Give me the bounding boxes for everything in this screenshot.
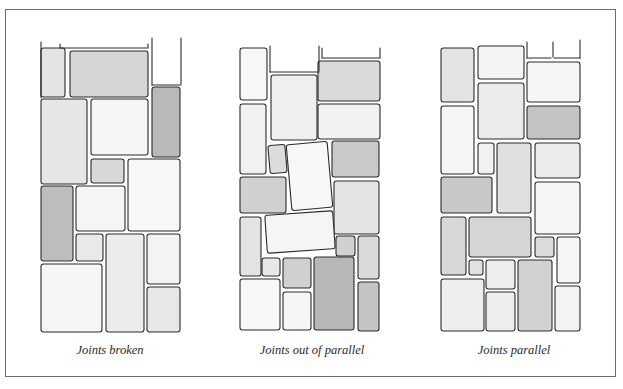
stone xyxy=(147,234,180,284)
stone xyxy=(41,186,73,261)
stone xyxy=(147,287,180,332)
stone xyxy=(527,62,580,102)
caption-joints-broken: Joints broken xyxy=(50,343,170,358)
stone xyxy=(240,104,266,174)
stone xyxy=(76,234,103,261)
stone xyxy=(240,279,280,330)
stone xyxy=(535,237,554,257)
stone xyxy=(478,46,524,79)
stone xyxy=(518,260,552,331)
stone xyxy=(334,181,379,234)
stone xyxy=(91,99,148,155)
stone xyxy=(70,51,148,97)
stone xyxy=(41,48,65,97)
stone xyxy=(336,236,355,256)
stone xyxy=(240,177,286,213)
stone xyxy=(283,258,311,288)
stone xyxy=(469,260,483,275)
stone xyxy=(91,159,124,183)
stone xyxy=(478,83,524,139)
stone xyxy=(318,104,380,139)
stone xyxy=(441,48,474,102)
stone xyxy=(441,106,474,174)
stone xyxy=(271,75,317,140)
stone xyxy=(535,182,580,234)
panel-joints-parallel xyxy=(441,40,580,331)
stone xyxy=(318,61,380,101)
caption-joints-parallel: Joints parallel xyxy=(454,343,574,358)
stone xyxy=(240,48,267,100)
open-stone-edge xyxy=(322,48,380,58)
stone xyxy=(478,143,494,174)
stone xyxy=(469,217,531,257)
stone xyxy=(441,177,492,213)
stone xyxy=(535,143,580,178)
stone xyxy=(265,211,335,254)
stone xyxy=(262,258,280,276)
stone xyxy=(106,234,144,332)
stone xyxy=(283,292,311,330)
stone xyxy=(152,87,180,157)
stone xyxy=(358,236,379,279)
stone xyxy=(268,144,287,173)
panel-joints-out-of-parallel xyxy=(240,46,380,331)
stone xyxy=(555,286,580,331)
stone xyxy=(128,159,180,231)
stone xyxy=(441,279,484,331)
stone xyxy=(41,264,102,332)
stone-wall-illustration xyxy=(0,0,623,389)
stone xyxy=(557,237,580,283)
stone xyxy=(441,217,466,275)
stone xyxy=(286,141,333,210)
caption-joints-out-of-parallel: Joints out of parallel xyxy=(252,343,372,358)
open-stone-edge xyxy=(60,44,148,48)
stone xyxy=(358,282,379,331)
stone xyxy=(41,99,87,184)
stone xyxy=(240,217,261,276)
panel-joints-broken xyxy=(41,38,181,332)
stone xyxy=(486,260,515,289)
stone xyxy=(497,143,531,213)
stone xyxy=(314,257,354,330)
stone xyxy=(332,141,379,177)
stone xyxy=(76,186,125,231)
stone xyxy=(486,292,515,331)
stone xyxy=(527,106,580,139)
